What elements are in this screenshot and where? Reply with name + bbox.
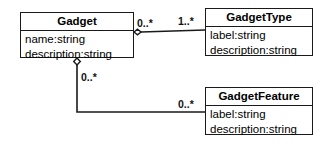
class-attribute: name:string [25, 32, 133, 47]
multiplicity-label-gadgetfeature-side: 0..* [178, 99, 194, 110]
class-name-gadget: Gadget [21, 13, 133, 31]
class-attributes-gadget: name:string description:string [21, 31, 133, 63]
class-box-gadgetfeature[interactable]: GadgetFeature label:string description:s… [205, 87, 313, 135]
class-name-gadgettype: GadgetType [206, 9, 312, 27]
uml-class-diagram: Gadget name:string description:string Ga… [0, 0, 331, 144]
class-attribute: label:string [210, 107, 312, 122]
class-attribute: description:string [210, 43, 312, 58]
class-attributes-gadgettype: label:string description:string [206, 27, 312, 59]
class-name-gadgetfeature: GadgetFeature [206, 88, 312, 106]
class-attribute: description:string [210, 122, 312, 137]
class-box-gadgettype[interactable]: GadgetType label:string description:stri… [205, 8, 313, 56]
aggregation-diamond-gadget-gadgettype [134, 29, 141, 35]
association-gadget-gadgettype [134, 29, 205, 35]
class-attributes-gadgetfeature: label:string description:string [206, 106, 312, 138]
association-line-gadget-gadgettype [141, 30, 205, 32]
multiplicity-label-gadget-side-gadgettype: 0..* [137, 18, 153, 29]
class-box-gadget[interactable]: Gadget name:string description:string [20, 12, 134, 58]
class-attribute: label:string [210, 28, 312, 43]
multiplicity-label-gadget-side-gadgetfeature: 0..* [81, 72, 97, 83]
class-attribute: description:string [25, 47, 133, 62]
multiplicity-label-gadgettype-side: 1..* [178, 16, 194, 27]
